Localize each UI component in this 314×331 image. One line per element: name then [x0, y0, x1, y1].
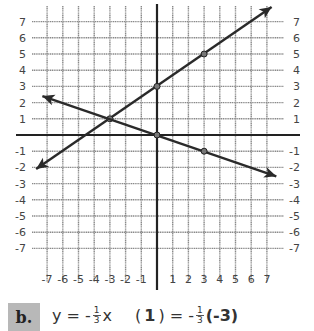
y-tick-label-left: 7	[19, 16, 26, 29]
equation-fraction: 1 3	[93, 306, 101, 325]
fraction-denominator: 3	[94, 316, 100, 325]
close-paren-equals: ) = -	[158, 306, 194, 325]
y-tick-label-left: -1	[15, 145, 26, 158]
y-tick-label-right: 1	[293, 113, 300, 126]
plotted-line	[36, 7, 271, 169]
x-tick-label: 4	[216, 273, 223, 286]
y-tick-label-right: -7	[289, 242, 300, 255]
problem-label: b.	[8, 303, 40, 331]
data-point	[154, 132, 160, 138]
y-tick-label-right: 5	[293, 48, 300, 61]
y-tick-label-right: -6	[289, 226, 300, 239]
data-point	[201, 51, 207, 57]
axes	[16, 4, 300, 290]
y-tick-label-right: -2	[289, 161, 300, 174]
arrowhead-icon	[259, 7, 272, 18]
y-tick-label-left: -3	[15, 178, 26, 191]
x-tick-label: -3	[104, 273, 115, 286]
x-tick-label: -5	[73, 273, 84, 286]
y-value: 1	[144, 306, 155, 325]
y-tick-label-right: -3	[289, 178, 300, 191]
y-tick-label-right: -5	[289, 210, 300, 223]
x-tick-label: 1	[169, 273, 176, 286]
equation-lhs: y = -	[52, 306, 91, 325]
fraction-denominator: 3	[197, 316, 203, 325]
x-tick-label: 7	[263, 273, 270, 286]
x-tick-label: -1	[136, 273, 147, 286]
x-tick-label: -4	[89, 273, 100, 286]
y-tick-label-left: -5	[15, 210, 26, 223]
substitution: ( 1 ) = - 1 3 (-3)	[135, 306, 238, 325]
y-tick-label-left: 6	[19, 32, 26, 45]
y-tick-label-right: 4	[293, 64, 300, 77]
x-tick-label: -6	[57, 273, 68, 286]
y-tick-label-left: -6	[15, 226, 26, 239]
y-tick-label-left: -2	[15, 161, 26, 174]
open-paren: (	[135, 306, 141, 325]
y-tick-label-right: 6	[293, 32, 300, 45]
y-tick-label-left: 2	[19, 97, 26, 110]
y-tick-label-left: -4	[15, 194, 26, 207]
y-tick-label-right: 2	[293, 97, 300, 110]
y-tick-label-left: 1	[19, 113, 26, 126]
y-tick-label-left: -7	[15, 242, 26, 255]
y-tick-label-left: 5	[19, 48, 26, 61]
x-tick-label: 2	[185, 273, 192, 286]
data-point	[154, 83, 160, 89]
data-point	[201, 148, 207, 154]
x-tick-label: 5	[232, 273, 239, 286]
y-tick-label-right: -4	[289, 194, 300, 207]
problem-footer: b. y = - 1 3 x ( 1 ) = - 1 3 (-3)	[0, 300, 314, 331]
coordinate-graph: -7-6-5-4-3-2-112345677654321-1-2-3-4-5-6…	[0, 0, 314, 300]
y-tick-label-right: 7	[293, 16, 300, 29]
x-tick-label: -2	[120, 273, 131, 286]
equation-variable: x	[103, 306, 112, 325]
substitution-fraction: 1 3	[196, 306, 204, 325]
x-tick-label: -7	[42, 273, 53, 286]
x-value: (-3)	[206, 306, 238, 325]
equation: y = - 1 3 x	[52, 306, 112, 325]
x-tick-label: 3	[201, 273, 208, 286]
x-tick-label: 6	[248, 273, 255, 286]
y-tick-label-left: 4	[19, 64, 26, 77]
y-tick-label-right: -1	[289, 145, 300, 158]
y-tick-label-right: 3	[293, 80, 300, 93]
y-tick-label-left: 3	[19, 80, 26, 93]
